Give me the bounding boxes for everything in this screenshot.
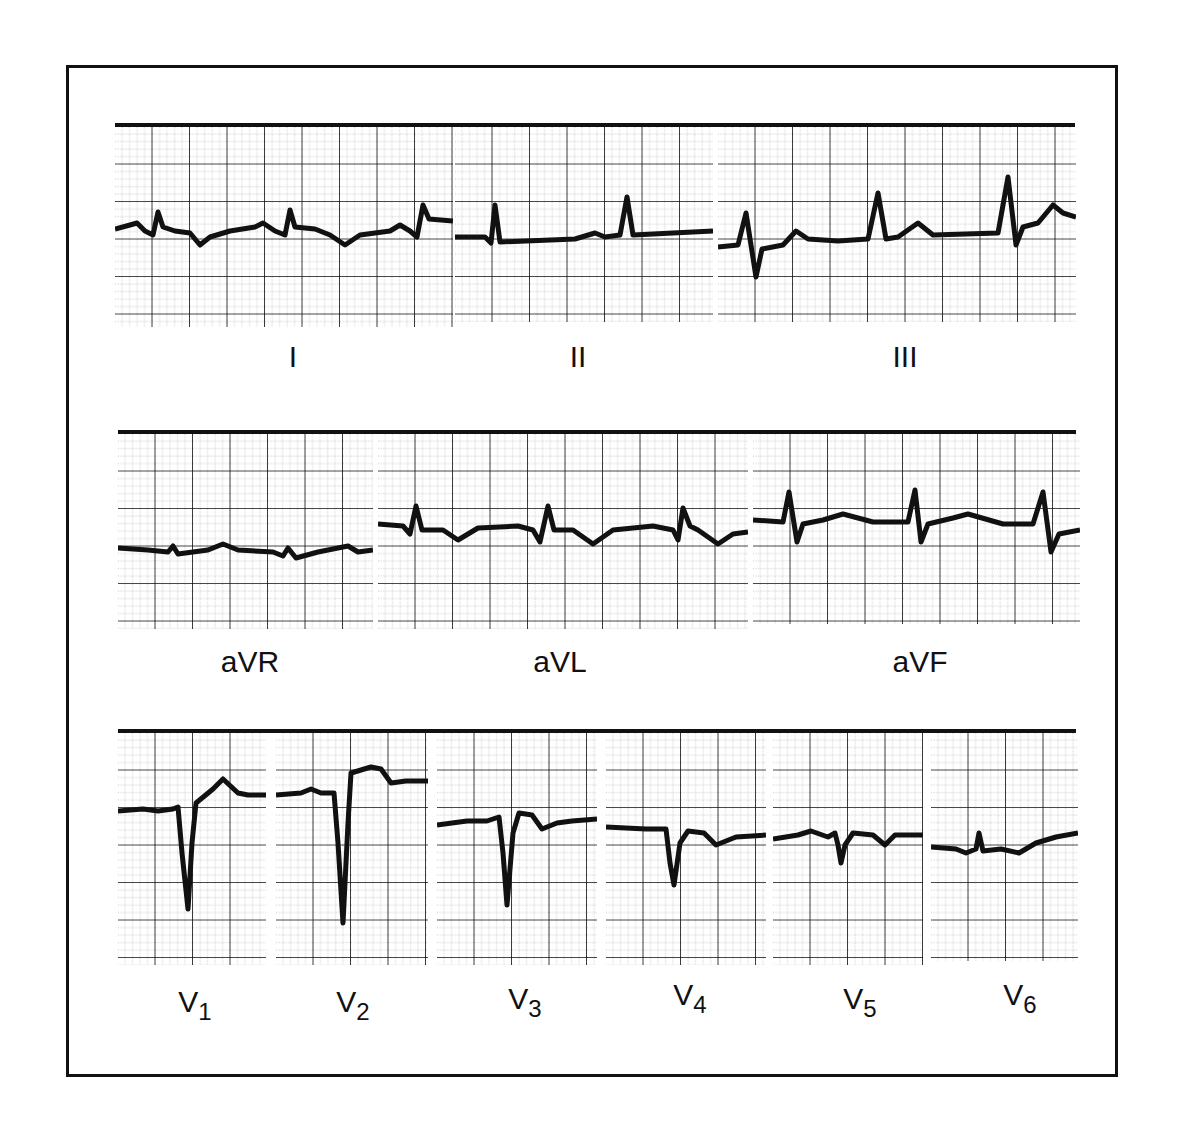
ecg-strip-lead-V1	[118, 733, 266, 965]
lead-label-aVL: aVL	[520, 645, 600, 679]
ecg-strip-lead-aVF	[753, 434, 1080, 624]
ecg-strip-lead-aVL	[378, 434, 748, 629]
lead-label-V5-sub: 5	[863, 995, 876, 1022]
ecg-trace-lead-V5	[773, 733, 923, 965]
lead-label-aVF: aVF	[880, 645, 960, 679]
ecg-trace-lead-II	[455, 127, 713, 322]
lead-label-V1-sub: 1	[198, 998, 211, 1025]
ecg-strip-lead-aVR	[118, 434, 373, 629]
lead-label-V4-sub: 4	[693, 991, 706, 1018]
ecg-trace-lead-aVF	[753, 434, 1080, 624]
lead-label-V2-sub: 2	[356, 998, 369, 1025]
ecg-trace-lead-V1	[118, 733, 266, 965]
ecg-trace-lead-I	[115, 127, 453, 327]
lead-label-I: I	[268, 340, 318, 374]
lead-label-V4: V4	[655, 978, 725, 1019]
lead-label-II: II	[548, 340, 608, 374]
lead-label-V2: V2	[318, 985, 388, 1026]
ecg-trace-lead-aVL	[378, 434, 748, 629]
ecg-strip-lead-V2	[276, 733, 428, 965]
ecg-trace-lead-V3	[437, 733, 597, 965]
lead-label-V6-sub: 6	[1023, 991, 1036, 1018]
ecg-strip-lead-II	[455, 127, 713, 322]
ecg-strip-lead-I	[115, 127, 453, 327]
lead-label-V5: V5	[825, 982, 895, 1023]
ecg-strip-lead-III	[718, 127, 1076, 322]
lead-label-III: III	[875, 340, 935, 374]
lead-label-V3: V3	[490, 982, 560, 1023]
ecg-trace-lead-III	[718, 127, 1076, 322]
ecg-trace-lead-V6	[931, 733, 1078, 961]
ecg-strip-lead-V4	[606, 733, 766, 965]
lead-label-V6: V6	[985, 978, 1055, 1019]
ecg-trace-lead-aVR	[118, 434, 373, 629]
lead-label-V1: V1	[160, 985, 230, 1026]
lead-label-V5-letter: V	[843, 982, 863, 1015]
lead-label-aVR: aVR	[210, 645, 290, 679]
ecg-strip-lead-V6	[931, 733, 1078, 961]
ecg-trace-lead-V4	[606, 733, 766, 965]
lead-label-V6-letter: V	[1003, 978, 1023, 1011]
lead-label-V3-sub: 3	[528, 995, 541, 1022]
lead-label-V1-letter: V	[178, 985, 198, 1018]
lead-label-V2-letter: V	[336, 985, 356, 1018]
ecg-strip-lead-V5	[773, 733, 923, 965]
lead-label-V3-letter: V	[508, 982, 528, 1015]
ecg-strip-lead-V3	[437, 733, 597, 965]
lead-label-V4-letter: V	[673, 978, 693, 1011]
ecg-trace-lead-V2	[276, 733, 428, 965]
